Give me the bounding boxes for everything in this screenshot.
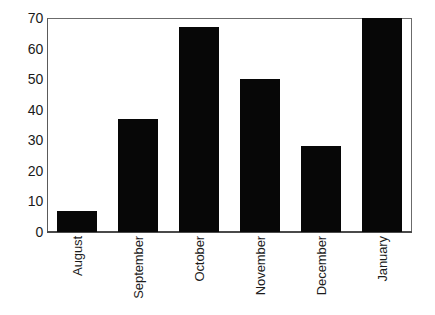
x-tick-label: October [193, 236, 206, 282]
bar-rect [301, 146, 341, 232]
y-tick-label: 50 [2, 72, 43, 86]
y-tick-label: 70 [2, 11, 43, 25]
y-tick-label: 20 [2, 164, 43, 178]
x-tick-label: November [253, 236, 266, 295]
x-axis: AugustSeptemberOctoberNovemberDecemberJa… [47, 236, 412, 315]
bar-november[interactable] [240, 18, 280, 232]
bar-august[interactable] [57, 18, 97, 232]
x-tick-label: December [314, 236, 327, 295]
y-tick-label: 30 [2, 133, 43, 147]
x-tick-slot: October [169, 236, 230, 315]
x-tick-label: January [375, 236, 388, 282]
bar-rect [179, 27, 219, 232]
bar-rect [362, 18, 402, 232]
bar-january[interactable] [362, 18, 402, 232]
bar-rect [57, 211, 97, 232]
x-tick-slot: November [230, 236, 291, 315]
bar-rect [240, 79, 280, 232]
bar-december[interactable] [301, 18, 341, 232]
y-tick-label: 10 [2, 194, 43, 208]
x-tick-label: August [71, 236, 84, 276]
x-tick-slot: September [108, 236, 169, 315]
x-tick-label: September [132, 236, 145, 299]
bar-rect [118, 119, 158, 232]
bar-chart-figure: 010203040506070 AugustSeptemberOctoberNo… [0, 0, 435, 315]
x-tick-slot: August [47, 236, 108, 315]
bar-october[interactable] [179, 18, 219, 232]
bar-september[interactable] [118, 18, 158, 232]
y-tick-label: 0 [2, 225, 43, 239]
x-tick-slot: January [351, 236, 412, 315]
bars-group [47, 18, 412, 232]
x-tick-slot: December [290, 236, 351, 315]
y-axis: 010203040506070 [0, 0, 43, 315]
y-tick-label: 60 [2, 42, 43, 56]
y-tick-label: 40 [2, 103, 43, 117]
